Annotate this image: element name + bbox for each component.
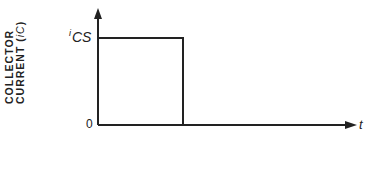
y-axis-label: COLLECTOR CURRENT (iC)	[4, 21, 26, 104]
origin-label: 0	[86, 117, 93, 131]
high-level-label: iCS	[69, 28, 91, 45]
x-axis-label: t	[359, 117, 363, 132]
current-pulse	[98, 38, 183, 125]
y-axis-label-line2: CURRENT (iC)	[15, 21, 26, 104]
x-axis-arrow-icon	[345, 121, 357, 129]
collector-current-waveform-diagram: COLLECTOR CURRENT (iC) iCS 0 t	[0, 0, 373, 171]
waveform-plot	[0, 0, 373, 171]
y-axis-arrow-icon	[94, 8, 102, 19]
